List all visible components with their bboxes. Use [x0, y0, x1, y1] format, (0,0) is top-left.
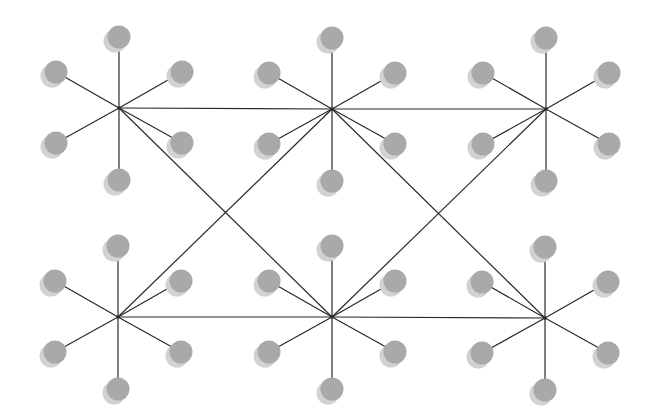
hub-bottom-left [40, 235, 193, 405]
hub-bottom-right [467, 236, 620, 406]
node-circle [597, 342, 620, 365]
leaf-node [380, 133, 407, 160]
leaf-node [103, 378, 130, 405]
leaf-node [531, 170, 558, 197]
leaf-node [167, 61, 194, 88]
node-circle [258, 270, 281, 293]
node-circle [472, 133, 495, 156]
leaf-node [40, 270, 67, 297]
node-circle [384, 341, 407, 364]
node-circle [321, 235, 344, 258]
node-circle [471, 342, 494, 365]
leaf-node [593, 271, 620, 298]
leaf-node [531, 27, 558, 54]
node-circle [108, 26, 131, 49]
leaf-node [468, 62, 495, 89]
leaf-node [593, 342, 620, 369]
hub-bottom-middle [254, 235, 407, 405]
node-circle [321, 27, 344, 50]
node-circle [534, 379, 557, 402]
network-diagram [0, 0, 658, 420]
leaf-node [254, 270, 281, 297]
leaf-node [468, 133, 495, 160]
node-circle [535, 170, 558, 193]
node-circle [535, 27, 558, 50]
leaf-node [41, 132, 68, 159]
hub-edge [119, 108, 332, 109]
hub-edge [332, 317, 545, 318]
node-circle [258, 133, 281, 156]
node-circle [170, 270, 193, 293]
node-circle [598, 133, 621, 156]
leaf-node [380, 62, 407, 89]
node-circle [597, 271, 620, 294]
leaf-node [530, 379, 557, 406]
node-circle [472, 62, 495, 85]
leaf-node [467, 271, 494, 298]
leaf-node [467, 342, 494, 369]
leaf-node [104, 26, 131, 53]
node-circle [170, 341, 193, 364]
node-circle [171, 132, 194, 155]
node-circle [321, 170, 344, 193]
leaf-node [254, 341, 281, 368]
node-circle [534, 236, 557, 259]
leaf-node [104, 169, 131, 196]
leaf-node [530, 236, 557, 263]
edges-layer [55, 37, 609, 390]
leaf-node [317, 170, 344, 197]
leaf-node [103, 235, 130, 262]
leaf-node [166, 270, 193, 297]
node-circle [384, 133, 407, 156]
node-circle [384, 62, 407, 85]
leaf-node [380, 341, 407, 368]
hub-point [544, 107, 548, 111]
leaf-node [317, 235, 344, 262]
hub-point [117, 106, 121, 110]
node-circle [45, 61, 68, 84]
node-circle [44, 341, 67, 364]
leaf-node [317, 27, 344, 54]
leaf-node [254, 62, 281, 89]
hub-point [330, 107, 334, 111]
leaf-node [594, 62, 621, 89]
nodes-layer [40, 26, 621, 406]
node-circle [258, 62, 281, 85]
hub-top-left [41, 26, 194, 196]
node-circle [45, 132, 68, 155]
leaf-node [317, 378, 344, 405]
leaf-node [41, 61, 68, 88]
leaf-node [167, 132, 194, 159]
hub-point [116, 315, 120, 319]
node-circle [107, 378, 130, 401]
node-circle [107, 235, 130, 258]
hub-point [330, 315, 334, 319]
node-circle [44, 270, 67, 293]
node-circle [171, 61, 194, 84]
node-circle [471, 271, 494, 294]
node-circle [598, 62, 621, 85]
leaf-node [380, 270, 407, 297]
leaf-node [594, 133, 621, 160]
leaf-node [166, 341, 193, 368]
leaf-node [40, 341, 67, 368]
node-circle [384, 270, 407, 293]
node-circle [108, 169, 131, 192]
node-circle [258, 341, 281, 364]
node-circle [321, 378, 344, 401]
hub-point [543, 316, 547, 320]
leaf-node [254, 133, 281, 160]
